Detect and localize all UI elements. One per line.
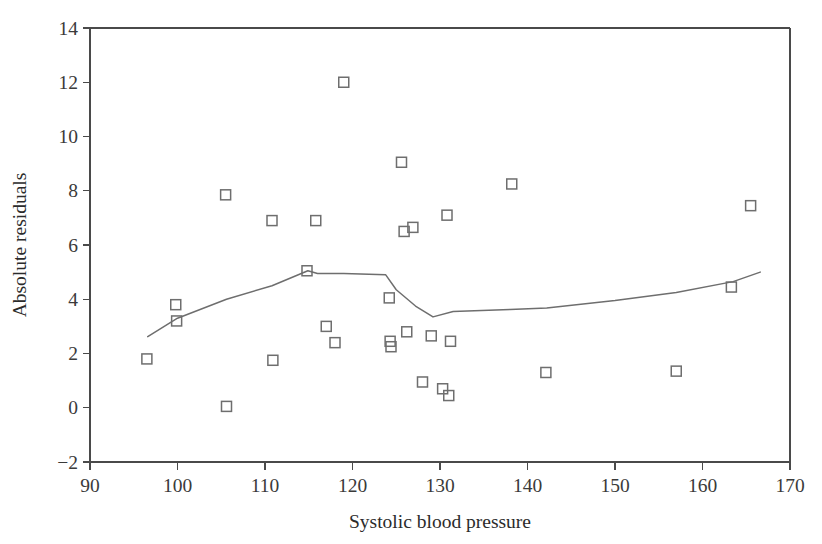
data-point-marker [426, 331, 436, 341]
y-tick-label: 14 [59, 18, 79, 39]
data-point-marker [444, 391, 454, 401]
data-point-marker [442, 210, 452, 220]
data-point-marker [541, 367, 551, 377]
x-tick-label: 120 [338, 475, 367, 496]
data-point-marker [507, 179, 517, 189]
y-tick-label: 12 [59, 72, 79, 93]
y-tick-label: 2 [68, 343, 78, 364]
data-point-marker [311, 216, 321, 226]
data-point-marker [222, 401, 232, 411]
data-point-marker [746, 201, 756, 211]
data-point-marker [268, 355, 278, 365]
x-axis-ticks: 90100110120130140150160170 [80, 462, 804, 496]
x-tick-label: 170 [775, 475, 804, 496]
y-axis-ticks: −202468101214 [57, 18, 90, 473]
data-point-marker [726, 282, 736, 292]
data-point-marker [339, 77, 349, 87]
data-point-marker [142, 354, 152, 364]
y-tick-label: −2 [57, 452, 78, 473]
y-axis-title: Absolute residuals [9, 173, 30, 318]
data-point-markers [142, 77, 756, 411]
y-tick-label: 0 [68, 397, 78, 418]
lowess-trend-line [148, 271, 761, 337]
data-point-marker [397, 157, 407, 167]
x-tick-label: 140 [513, 475, 542, 496]
x-tick-label: 160 [688, 475, 717, 496]
data-point-marker [438, 384, 448, 394]
y-tick-label: 8 [68, 180, 78, 201]
data-point-marker [402, 327, 412, 337]
x-tick-label: 110 [251, 475, 280, 496]
data-point-marker [418, 377, 428, 387]
x-axis-title: Systolic blood pressure [349, 511, 531, 532]
data-point-marker [171, 300, 181, 310]
x-tick-label: 130 [425, 475, 454, 496]
x-tick-label: 100 [163, 475, 192, 496]
data-point-marker [221, 190, 231, 200]
plot-canvas: −202468101214 90100110120130140150160170… [0, 0, 822, 544]
y-tick-label: 6 [68, 235, 78, 256]
data-point-marker [446, 336, 456, 346]
scatter-plot-figure: −202468101214 90100110120130140150160170… [0, 0, 822, 544]
y-tick-label: 10 [59, 126, 79, 147]
data-point-marker [671, 366, 681, 376]
data-point-marker [330, 338, 340, 348]
x-tick-label: 150 [600, 475, 629, 496]
data-point-marker [384, 293, 394, 303]
y-tick-label: 4 [68, 289, 78, 310]
x-tick-label: 90 [80, 475, 100, 496]
data-point-marker [321, 321, 331, 331]
data-point-marker [267, 216, 277, 226]
